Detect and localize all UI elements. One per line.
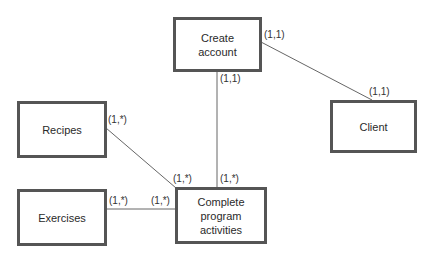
- cardinality-create-account-to-complete-program: (1,1): [220, 73, 241, 84]
- entity-label: Exercises: [38, 211, 86, 225]
- line-create-account-client: [261, 42, 372, 100]
- cardinality-create-account-to-client: (1,1): [264, 29, 285, 40]
- entity-exercises[interactable]: Exercises: [17, 189, 107, 246]
- entity-complete-program-activities[interactable]: Complete program activities: [175, 187, 267, 244]
- entity-label: Recipes: [42, 123, 82, 137]
- entity-create-account[interactable]: Create account: [173, 17, 262, 72]
- line-recipes-complete-program: [106, 128, 176, 188]
- cardinality-complete-program-from-exercises: (1,*): [151, 195, 170, 206]
- entity-label: Client: [359, 120, 387, 134]
- cardinality-client-from-create-account: (1,1): [369, 86, 390, 97]
- entity-label: Complete program activities: [197, 195, 244, 237]
- entity-recipes[interactable]: Recipes: [17, 101, 107, 158]
- cardinality-recipes-to-complete-program: (1,*): [108, 114, 127, 125]
- entity-client[interactable]: Client: [330, 100, 417, 153]
- cardinality-complete-program-from-recipes: (1,*): [173, 173, 192, 184]
- entity-label: Create account: [198, 31, 237, 59]
- cardinality-complete-program-from-create-account: (1,*): [220, 173, 239, 184]
- cardinality-exercises-to-complete-program: (1,*): [109, 195, 128, 206]
